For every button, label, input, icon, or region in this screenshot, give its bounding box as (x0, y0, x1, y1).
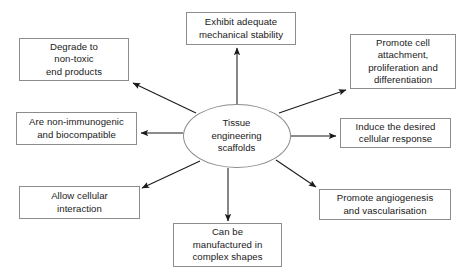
edge-to-promote-angiogenesis-and-vascularisation (276, 160, 316, 187)
center-node-label: Tissue engineering scaffolds (211, 117, 261, 154)
node-promote-cell-attachment[interactable]: Promote cell attachment, proliferation a… (350, 34, 456, 89)
node-can-be-manufactured-in-complex-shapes[interactable]: Can be manufactured in complex shapes (173, 223, 282, 267)
center-node-tissue-engineering-scaffolds[interactable]: Tissue engineering scaffolds (183, 104, 291, 168)
node-label: Are non-immunogenic and biocompatible (29, 116, 124, 141)
node-label: Degrade to non-toxic end products (46, 41, 102, 78)
node-label: Exhibit adequate mechanical stability (199, 16, 283, 41)
node-promote-angiogenesis-and-vascularisation[interactable]: Promote angiogenesis and vascularisation (319, 189, 451, 220)
node-label: Allow cellular interaction (51, 190, 108, 215)
node-label: Promote cell attachment, proliferation a… (368, 37, 438, 87)
node-allow-cellular-interaction[interactable]: Allow cellular interaction (19, 186, 140, 219)
node-label: Promote angiogenesis and vascularisation (337, 192, 433, 217)
node-are-non-immunogenic-and-biocompatible[interactable]: Are non-immunogenic and biocompatible (16, 112, 137, 145)
node-label: Can be manufactured in complex shapes (192, 226, 262, 263)
node-induce-the-desired-cellular-response[interactable]: Induce the desired cellular response (340, 118, 451, 148)
node-label: Induce the desired cellular response (356, 121, 436, 146)
edge-to-degrade-to-non-toxic-end-products (133, 83, 196, 113)
edge-to-allow-cellular-interaction (142, 161, 200, 188)
edge-to-promote-cell-attachment (279, 90, 346, 113)
node-exhibit-adequate-mechanical-stability[interactable]: Exhibit adequate mechanical stability (186, 12, 296, 45)
tissue-engineering-scaffolds-diagram: Tissue engineering scaffolds Exhibit ade… (0, 0, 464, 280)
node-degrade-to-non-toxic-end-products[interactable]: Degrade to non-toxic end products (19, 38, 129, 81)
